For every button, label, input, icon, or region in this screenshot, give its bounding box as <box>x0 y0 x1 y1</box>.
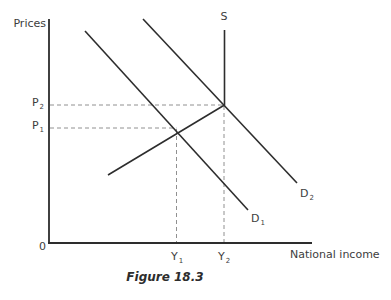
demand2-label: D2 <box>300 188 314 199</box>
price2-label: P2 <box>14 97 44 108</box>
supply-curve-label: S <box>214 11 234 22</box>
demand-curve-2 <box>143 19 297 183</box>
figure-canvas: Prices S P2 P1 0 Y1 Y2 D1 D2 National in… <box>0 0 391 300</box>
y-axis-label: Prices <box>6 18 46 29</box>
origin-label: 0 <box>26 241 46 252</box>
x-axis-label: National income <box>290 249 380 260</box>
demand1-label: D1 <box>251 213 265 224</box>
income1-label: Y1 <box>163 251 191 262</box>
price1-label: P1 <box>14 120 44 131</box>
supply-curve <box>108 30 225 175</box>
income2-label: Y2 <box>210 251 238 262</box>
figure-caption: Figure 18.3 <box>108 270 222 284</box>
